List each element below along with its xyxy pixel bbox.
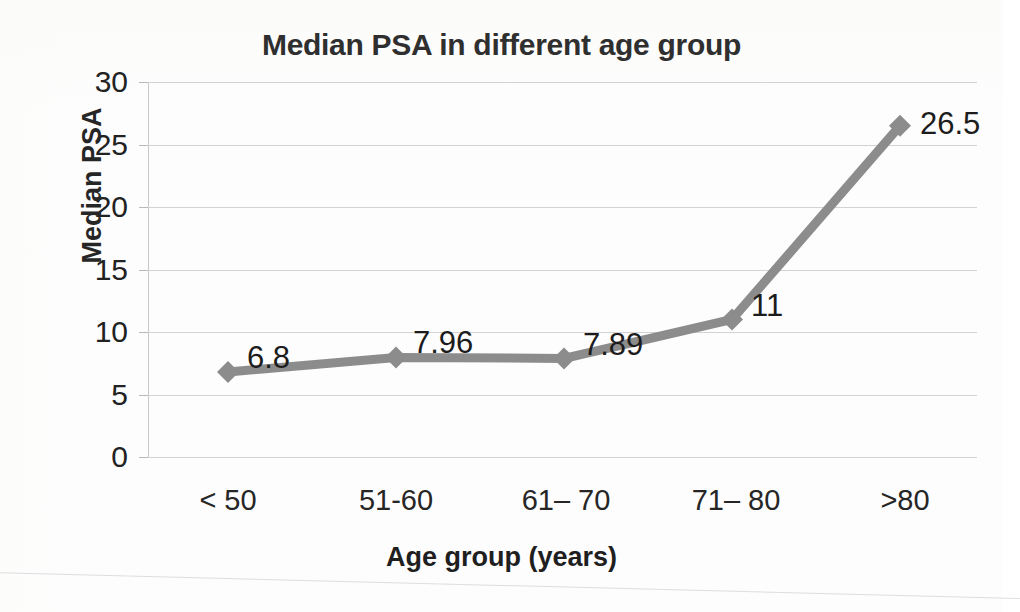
data-label-2: 7.89	[583, 329, 643, 360]
data-label-0: 6.8	[247, 342, 290, 373]
data-label-4: 26.5	[920, 108, 980, 139]
data-point-marker-1	[385, 347, 407, 369]
data-label-1: 7.96	[413, 327, 473, 358]
x-tick-label-4: >80	[805, 484, 1005, 517]
data-point-marker-0	[217, 361, 239, 383]
data-label-3: 11	[751, 290, 783, 321]
data-point-marker-2	[553, 347, 575, 369]
x-axis-title: Age group (years)	[0, 542, 1003, 573]
